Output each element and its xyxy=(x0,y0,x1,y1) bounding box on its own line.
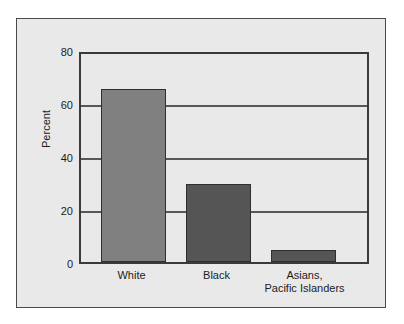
chart-panel: 80 60 40 20 0 Percent White Black Asians… xyxy=(16,18,386,308)
bar-asians-pacific-islanders xyxy=(271,250,336,262)
y-tick-0: 0 xyxy=(67,259,73,270)
y-tick-40: 40 xyxy=(61,153,73,164)
bar-black xyxy=(186,184,251,262)
y-tick-20: 20 xyxy=(61,206,73,217)
plot-area xyxy=(79,52,369,264)
x-label-asians-pacific-islanders: Asians, Pacific Islanders xyxy=(242,269,367,295)
bar-white xyxy=(101,89,166,262)
y-tick-60: 60 xyxy=(61,100,73,111)
y-axis-title: Percent xyxy=(40,94,52,164)
chart-figure: 80 60 40 20 0 Percent White Black Asians… xyxy=(0,0,404,324)
y-tick-80: 80 xyxy=(61,47,73,58)
